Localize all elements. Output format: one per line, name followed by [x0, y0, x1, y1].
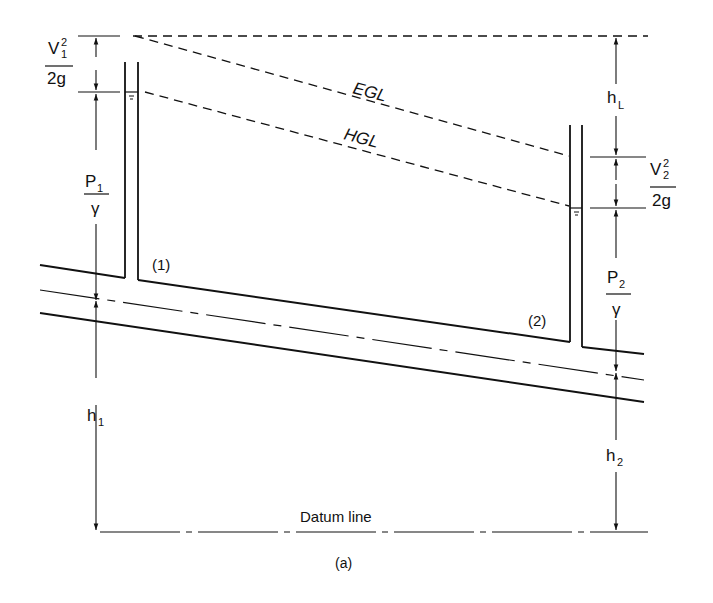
- section-2-label: (2): [528, 312, 546, 329]
- svg-text:h: h: [87, 406, 96, 425]
- svg-text:V: V: [48, 39, 60, 58]
- velocity-head-1-label: V 2 1 2g: [45, 36, 73, 88]
- egl-label: EGL: [351, 79, 389, 106]
- elevation-head-2-label: h 2: [606, 446, 623, 468]
- svg-text:2: 2: [61, 36, 67, 48]
- svg-text:2g: 2g: [47, 69, 66, 88]
- piezometer-tube-1: [125, 62, 138, 280]
- velocity-head-2-label: V 2 2 2g: [650, 157, 676, 210]
- svg-text:1: 1: [98, 416, 104, 428]
- svg-text:2: 2: [619, 278, 625, 290]
- pressure-head-1-label: P 1 γ: [84, 172, 109, 218]
- pressure-head-2-label: P 2 γ: [606, 268, 631, 319]
- svg-text:P: P: [607, 268, 618, 287]
- svg-text:L: L: [618, 99, 624, 111]
- svg-text:2g: 2g: [652, 191, 671, 210]
- hgl-line: [145, 92, 569, 206]
- svg-text:V: V: [650, 160, 662, 179]
- svg-text:1: 1: [97, 182, 103, 194]
- piezometer-tube-2: [570, 125, 582, 347]
- svg-text:γ: γ: [91, 199, 100, 218]
- svg-text:1: 1: [61, 48, 67, 60]
- head-loss-label: h L: [607, 88, 624, 111]
- svg-text:h: h: [606, 446, 615, 465]
- svg-text:2: 2: [663, 169, 669, 181]
- hgl-label: HGL: [342, 125, 381, 152]
- svg-text:h: h: [607, 88, 616, 107]
- svg-text:γ: γ: [612, 300, 621, 319]
- svg-text:2: 2: [617, 456, 623, 468]
- pipe-centerline: [40, 290, 644, 380]
- datum-line-label: Datum line: [300, 508, 372, 525]
- elevation-head-1-label: h 1: [87, 406, 104, 428]
- svg-text:2: 2: [663, 157, 669, 169]
- svg-text:P: P: [85, 172, 96, 191]
- section-1-label: (1): [152, 256, 170, 273]
- energy-grade-line-diagram: EGL HGL (1) (2) Datum line (a): [0, 0, 713, 603]
- pipe: [40, 265, 644, 402]
- figure-caption: (a): [335, 555, 352, 571]
